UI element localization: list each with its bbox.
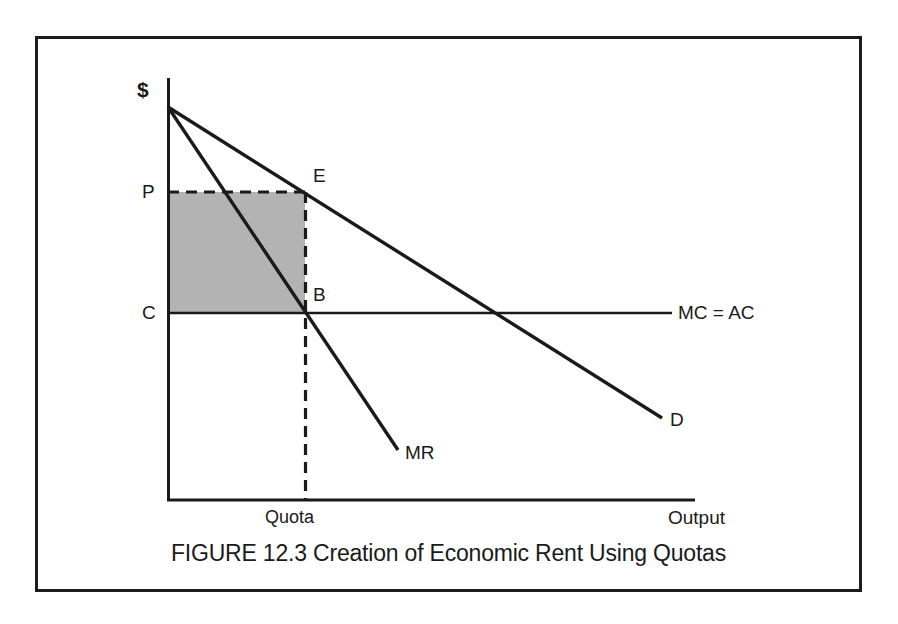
- economics-diagram-plot: [0, 0, 898, 624]
- point-label-e: E: [313, 166, 326, 185]
- point-label-b: B: [313, 285, 326, 304]
- demand-curve-label: D: [670, 410, 684, 429]
- figure-container: $ P C E B MC = AC D MR Quota Output FIGU…: [0, 0, 898, 624]
- marginal-revenue-curve-label: MR: [405, 443, 435, 462]
- figure-caption: FIGURE 12.3 Creation of Economic Rent Us…: [35, 540, 862, 567]
- x-axis-label-output: Output: [668, 508, 725, 527]
- x-axis-tick-label-quota: Quota: [265, 508, 314, 526]
- mc-ac-curve-label: MC = AC: [678, 303, 755, 322]
- price-level-label-p: P: [142, 182, 155, 201]
- y-axis-label-dollar: $: [137, 79, 149, 100]
- cost-level-label-c: C: [142, 303, 156, 322]
